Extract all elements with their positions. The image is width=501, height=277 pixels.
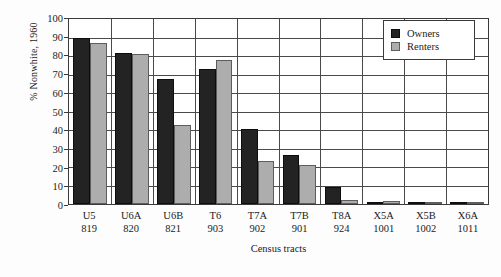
bar-owners-u5 <box>73 38 90 204</box>
y-axis-tick-mark <box>64 93 68 94</box>
y-axis-tick-label: 60 <box>0 87 63 98</box>
bar-renters-t8a <box>341 200 358 204</box>
bar-group <box>320 19 362 204</box>
x-axis-label: T6903 <box>194 209 236 235</box>
x-axis-label: X6A1011 <box>447 209 489 235</box>
bar-group <box>153 19 195 204</box>
bar-renters-u6a <box>132 54 149 204</box>
x-axis-label-code: T7A <box>236 209 278 222</box>
bar-renters-x6a <box>467 202 484 204</box>
y-axis-tick-label: 10 <box>0 181 63 192</box>
y-axis-tick-label: 50 <box>0 106 63 117</box>
x-axis-label-code: T8A <box>321 209 363 222</box>
x-axis-label-number: 1001 <box>363 222 405 235</box>
y-axis-tick-mark <box>64 55 68 56</box>
y-axis-tick-mark <box>64 74 68 75</box>
bar-owners-u6b <box>157 79 174 204</box>
y-axis-tick-label: 40 <box>0 125 63 136</box>
x-axis-label-code: X5B <box>405 209 447 222</box>
legend: Owners Renters <box>383 20 475 60</box>
y-axis-tick-label: 100 <box>0 13 63 24</box>
x-axis-label-number: 1002 <box>405 222 447 235</box>
bar-renters-t7a <box>258 161 275 204</box>
y-axis-tick-mark <box>64 205 68 206</box>
bar-renters-t7b <box>299 165 316 204</box>
x-axis-label-code: U6A <box>110 209 152 222</box>
x-axis-label: U6A820 <box>110 209 152 235</box>
bar-renters-x5a <box>383 201 400 204</box>
bar-group <box>237 19 279 204</box>
bar-renters-t6 <box>216 60 233 204</box>
bar-renters-u6b <box>174 125 191 204</box>
x-axis-label-code: X6A <box>447 209 489 222</box>
x-axis-label-code: X5A <box>363 209 405 222</box>
bar-group <box>279 19 321 204</box>
legend-swatch-renters <box>391 42 400 51</box>
x-axis-label-number: 821 <box>152 222 194 235</box>
y-axis-tick-label: 90 <box>0 31 63 42</box>
x-axis-label-number: 820 <box>110 222 152 235</box>
bar-owners-t7b <box>283 155 300 204</box>
x-axis-label-number: 924 <box>321 222 363 235</box>
x-axis-label: T7B901 <box>278 209 320 235</box>
x-axis-label-number: 903 <box>194 222 236 235</box>
x-axis-label: X5B1002 <box>405 209 447 235</box>
bar-group <box>69 19 111 204</box>
bar-chart: % Nonwhite, 1960 1009080706050403020100 … <box>0 0 501 277</box>
bar-owners-t6 <box>199 69 216 204</box>
x-axis-label-number: 819 <box>68 222 110 235</box>
x-axis-label: T8A924 <box>321 209 363 235</box>
x-axis-labels: U5819U6A820U6B821T6903T7A902T7B901T8A924… <box>68 209 489 235</box>
x-axis-label: T7A902 <box>236 209 278 235</box>
bar-owners-u6a <box>115 53 132 204</box>
x-axis-label-code: U5 <box>68 209 110 222</box>
bar-owners-x5b <box>408 202 425 204</box>
y-axis-tick-label: 0 <box>0 200 63 211</box>
y-axis-tick-label: 70 <box>0 69 63 80</box>
legend-label-renters: Renters <box>407 41 439 52</box>
bar-owners-t7a <box>241 129 258 204</box>
y-axis-tick-label: 30 <box>0 143 63 154</box>
y-axis-tick-mark <box>64 149 68 150</box>
bar-group <box>195 19 237 204</box>
y-axis-tick-mark <box>64 130 68 131</box>
y-axis-tick-mark <box>64 112 68 113</box>
x-axis-title: Census tracts <box>68 243 489 254</box>
y-axis-tick-mark <box>64 18 68 19</box>
bar-owners-t8a <box>325 187 342 204</box>
bar-owners-x6a <box>450 202 467 204</box>
y-axis-tick-label: 20 <box>0 162 63 173</box>
x-axis-label-number: 902 <box>236 222 278 235</box>
bar-owners-x5a <box>367 202 384 204</box>
legend-swatch-owners <box>391 29 400 38</box>
x-axis-label: U6B821 <box>152 209 194 235</box>
legend-item-owners: Owners <box>391 28 467 39</box>
y-axis-tick-mark <box>64 186 68 187</box>
legend-item-renters: Renters <box>391 41 467 52</box>
x-axis-label: X5A1001 <box>363 209 405 235</box>
y-axis-tick-mark <box>64 168 68 169</box>
legend-label-owners: Owners <box>407 28 440 39</box>
x-axis-label-code: T7B <box>278 209 320 222</box>
x-axis-label-code: U6B <box>152 209 194 222</box>
bar-group <box>111 19 153 204</box>
x-axis-label-number: 901 <box>278 222 320 235</box>
x-axis-label-number: 1011 <box>447 222 489 235</box>
y-axis-tick-label: 80 <box>0 50 63 61</box>
x-axis-label-code: T6 <box>194 209 236 222</box>
x-axis-label: U5819 <box>68 209 110 235</box>
y-axis-tick-mark <box>64 37 68 38</box>
bar-renters-x5b <box>425 202 442 204</box>
bar-renters-u5 <box>90 43 107 204</box>
